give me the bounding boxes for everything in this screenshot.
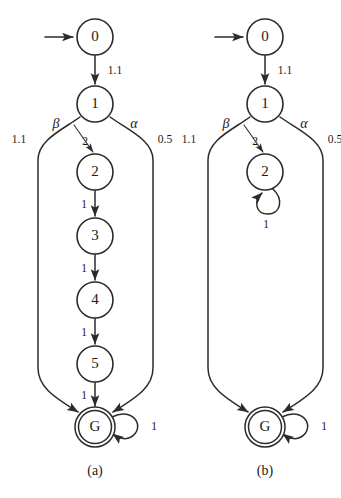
action-label-alpha-b: α — [300, 116, 308, 131]
node-4-a[interactable]: 4 — [77, 282, 113, 318]
edge-1-to-G-left-b — [208, 117, 250, 412]
node-3-label-a: 3 — [91, 227, 99, 243]
weight-label-2-3-a: 1 — [81, 198, 87, 210]
node-2-label-b: 2 — [261, 163, 269, 179]
edge-G-self-loop-a — [112, 414, 138, 439]
weight-label-0-1-a: 1.1 — [108, 64, 123, 76]
action-label-beta-b: β — [222, 116, 230, 131]
edge-1-to-G-left-a — [38, 117, 80, 412]
node-G-b[interactable]: G — [245, 407, 285, 447]
weight-label-beta-branch-b: 1.1 — [182, 133, 197, 145]
weight-label-4-5-a: 1 — [81, 326, 87, 338]
node-2-b[interactable]: 2 — [247, 154, 283, 190]
node-4-label-a: 4 — [91, 291, 99, 307]
node-G-a[interactable]: G — [75, 407, 115, 447]
node-2-label-a: 2 — [91, 163, 99, 179]
weight-label-1-2-b: 2 — [252, 135, 258, 147]
state-diagram-canvas: 0 1 2 3 4 5 — [0, 0, 341, 498]
weight-label-alpha-branch-b: 0.5 — [328, 133, 341, 145]
weight-label-5-G-a: 1 — [81, 389, 87, 401]
node-3-a[interactable]: 3 — [77, 218, 113, 254]
node-5-a[interactable]: 5 — [77, 346, 113, 382]
node-1-b[interactable]: 1 — [247, 86, 283, 122]
node-5-label-a: 5 — [91, 355, 99, 371]
node-G-label-a: G — [90, 418, 101, 434]
edge-2-self-loop-b — [257, 188, 280, 214]
panel-b: 0 1 2 G β α 1.1 1.1 2 0.5 1 — [182, 19, 341, 447]
figure-container: 0 1 2 3 4 5 — [0, 0, 341, 498]
node-0-b[interactable]: 0 — [247, 19, 283, 55]
caption-b: (b) — [257, 463, 274, 479]
weight-label-1-2-a: 2 — [82, 135, 88, 147]
weight-label-3-4-a: 1 — [81, 262, 87, 274]
edge-1-to-G-right-b — [280, 117, 323, 412]
node-1-label-a: 1 — [91, 95, 99, 111]
node-2-a[interactable]: 2 — [77, 154, 113, 190]
caption-a: (a) — [87, 463, 103, 479]
weight-label-0-1-b: 1.1 — [278, 64, 293, 76]
weight-label-2-self-b: 1 — [263, 218, 269, 230]
node-1-a[interactable]: 1 — [77, 86, 113, 122]
action-label-beta-a: β — [52, 116, 60, 131]
weight-label-alpha-branch-a: 0.5 — [158, 133, 173, 145]
node-1-label-b: 1 — [261, 95, 269, 111]
node-G-label-b: G — [260, 418, 271, 434]
weight-label-G-self-a: 1 — [151, 420, 157, 432]
node-0-label-b: 0 — [261, 28, 269, 44]
panel-a: 0 1 2 3 4 5 — [12, 19, 173, 447]
node-0-a[interactable]: 0 — [77, 19, 113, 55]
node-0-label-a: 0 — [91, 28, 99, 44]
edge-1-to-G-right-a — [110, 117, 153, 412]
weight-label-G-self-b: 1 — [321, 420, 327, 432]
edge-G-self-loop-b — [282, 414, 308, 439]
action-label-alpha-a: α — [130, 116, 138, 131]
weight-label-beta-branch-a: 1.1 — [12, 133, 27, 145]
